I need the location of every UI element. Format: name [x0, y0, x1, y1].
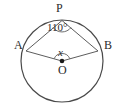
geometry-figure: P A B O 110° x [0, 0, 122, 110]
central-angle-variable-label: x [58, 47, 63, 58]
point-label-b: B [104, 39, 112, 51]
point-label-p: P [56, 2, 63, 14]
point-label-a: A [14, 39, 23, 51]
inscribed-angle-label: 110° [47, 22, 68, 33]
point-label-o: O [58, 64, 67, 76]
radius-oa-line [26, 51, 62, 61]
radius-ob-line [62, 51, 98, 61]
